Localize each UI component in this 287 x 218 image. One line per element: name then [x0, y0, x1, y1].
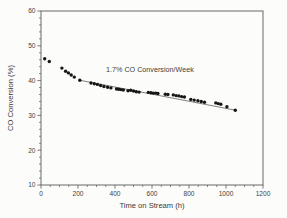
x-tick-label: 1200	[256, 190, 271, 197]
data-point	[96, 83, 99, 86]
data-point	[43, 57, 46, 60]
data-point	[156, 92, 159, 95]
plot-layer: 020040060080010001200102030405060	[28, 7, 271, 197]
data-point	[89, 81, 92, 84]
data-point	[67, 71, 70, 74]
data-point	[78, 79, 81, 82]
data-point	[183, 95, 186, 98]
trend-line	[80, 80, 235, 110]
x-tick-label: 0	[39, 190, 43, 197]
data-point	[234, 109, 237, 112]
y-tick-label: 40	[28, 77, 36, 84]
data-point	[109, 86, 112, 89]
data-point	[48, 60, 51, 63]
data-point	[137, 90, 140, 93]
data-point	[166, 93, 169, 96]
data-point	[200, 100, 203, 103]
data-point	[189, 98, 192, 101]
data-point	[122, 88, 125, 91]
x-tick-label: 400	[109, 190, 120, 197]
data-point	[219, 103, 222, 106]
x-tick-label: 800	[183, 190, 194, 197]
data-point	[203, 101, 206, 104]
data-point	[196, 99, 199, 102]
data-point	[73, 75, 76, 78]
x-axis-title: Time on Stream (h)	[119, 201, 185, 210]
y-tick-label: 20	[28, 147, 36, 154]
data-point	[106, 86, 109, 89]
x-tick-label: 600	[146, 190, 157, 197]
plot-frame	[41, 11, 263, 185]
data-point	[60, 66, 63, 69]
y-tick-label: 60	[28, 7, 36, 14]
chart-canvas: 020040060080010001200102030405060 1.7% C…	[0, 0, 287, 218]
y-tick-label: 10	[28, 181, 36, 188]
y-tick-label: 50	[28, 42, 36, 49]
x-tick-label: 1000	[219, 190, 234, 197]
data-point	[70, 73, 73, 76]
y-tick-label: 30	[28, 112, 36, 119]
data-point	[225, 105, 228, 108]
data-point	[193, 98, 196, 101]
y-axis-title: CO Conversion (%)	[6, 65, 15, 131]
co-conversion-chart: 020040060080010001200102030405060 1.7% C…	[0, 0, 287, 218]
data-point	[99, 84, 102, 87]
data-point	[93, 82, 96, 85]
x-tick-label: 200	[72, 190, 83, 197]
data-point	[102, 85, 105, 88]
trend-annotation: 1.7% CO Conversion/Week	[106, 65, 194, 74]
